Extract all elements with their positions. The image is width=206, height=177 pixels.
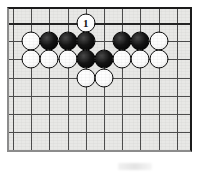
grid-line-vertical [159,9,160,150]
grid-line-vertical [13,9,14,150]
grid-line-horizontal [9,150,190,151]
grid-line-horizontal [9,114,190,115]
stone-white[interactable] [95,68,114,87]
stone-black[interactable] [76,50,95,69]
print-artifact [118,163,152,170]
grid-line-horizontal [9,96,190,97]
stone-white[interactable] [22,50,41,69]
grid-line-vertical [49,9,50,150]
stone-white[interactable] [22,32,41,51]
stone-white[interactable] [149,32,168,51]
stone-black[interactable] [113,32,132,51]
move-number-label: 1 [83,18,89,29]
stone-black[interactable] [131,32,150,51]
stone-white[interactable] [113,50,132,69]
grid-line-vertical [140,9,141,150]
go-diagram-figure: 1 [0,0,206,177]
board-top-edge-line [9,23,190,25]
go-board[interactable]: 1 [7,7,192,152]
grid-line-vertical [31,9,32,150]
stone-white[interactable] [131,50,150,69]
grid-line-vertical [68,9,69,150]
stone-black[interactable] [58,32,77,51]
move-marker-stone-white[interactable]: 1 [76,14,95,33]
grid-line-horizontal [9,132,190,133]
grid-line-vertical [122,9,123,150]
stone-white[interactable] [149,50,168,69]
stone-black[interactable] [76,32,95,51]
grid-line-vertical [177,9,178,150]
stone-white[interactable] [76,68,95,87]
stone-white[interactable] [58,50,77,69]
stone-white[interactable] [40,50,59,69]
stone-black[interactable] [40,32,59,51]
stone-black[interactable] [95,50,114,69]
